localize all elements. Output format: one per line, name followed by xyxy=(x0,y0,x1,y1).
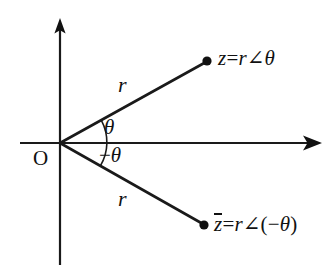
negative-theta-symbol: θ xyxy=(111,143,121,167)
real-axis xyxy=(20,136,322,151)
angle-label-negative-theta: −θ xyxy=(99,145,121,166)
angle-label-theta: θ xyxy=(104,117,114,138)
label-zbar-close-paren: ) xyxy=(290,212,297,236)
label-zbar-minus: − xyxy=(268,212,280,236)
label-z-theta: θ xyxy=(265,46,276,70)
origin-label: O xyxy=(33,148,48,169)
point-z-marker xyxy=(202,56,211,65)
magnitude-label-lower: r xyxy=(118,188,127,210)
point-z-conjugate-marker xyxy=(199,220,208,229)
label-zbar-equals: = xyxy=(222,212,234,236)
label-zbar-magnitude: r xyxy=(234,212,242,236)
label-z-magnitude: r xyxy=(238,46,246,70)
point-label-z-conjugate: z=r∠(−θ) xyxy=(214,213,298,235)
magnitude-label-upper: r xyxy=(118,74,127,96)
point-label-z: z=r∠θ xyxy=(218,48,275,69)
vector-z-conjugate-ray xyxy=(60,143,209,230)
complex-plane-figure: z=r∠θ z=r∠(−θ) r r θ −θ O xyxy=(0,0,333,277)
label-z-equals: = xyxy=(226,46,238,70)
label-zbar-open-paren: ( xyxy=(261,212,268,236)
angle-sign-icon: ∠ xyxy=(247,46,265,70)
label-zbar-theta: θ xyxy=(280,212,291,236)
negative-sign: − xyxy=(99,143,111,167)
angle-sign-icon: ∠ xyxy=(243,212,261,236)
label-zbar-variable: z xyxy=(214,213,222,235)
vector-z-ray xyxy=(60,56,212,143)
